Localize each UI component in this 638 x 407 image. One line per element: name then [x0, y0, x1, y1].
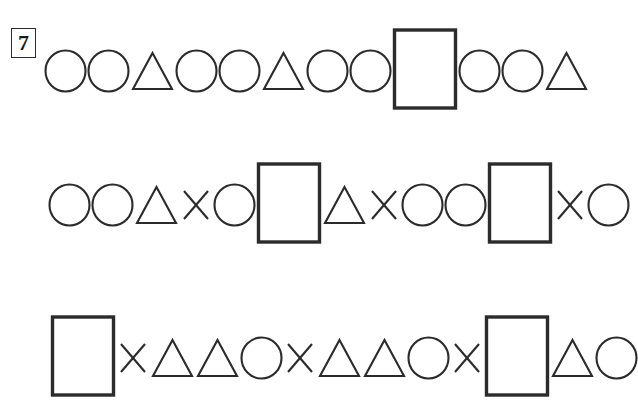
cross-shape	[367, 160, 401, 250]
circle-shape	[444, 160, 487, 250]
rectangle-shape	[487, 160, 553, 250]
circle-shape	[501, 26, 544, 116]
triangle-shape	[362, 313, 407, 403]
triangle-shape	[134, 160, 179, 250]
question-number-badge: 7	[11, 28, 36, 58]
rectangle-shape	[256, 160, 322, 250]
circle-shape	[44, 26, 87, 116]
cross-shape	[283, 313, 317, 403]
circle-shape	[587, 160, 630, 250]
sequence-row-3	[50, 313, 638, 403]
circle-shape	[87, 26, 130, 116]
circle-shape	[218, 26, 261, 116]
circle-shape	[349, 26, 392, 116]
cross-shape	[116, 313, 150, 403]
triangle-shape	[317, 313, 362, 403]
triangle-shape	[322, 160, 367, 250]
circle-shape	[213, 160, 256, 250]
triangle-shape	[195, 313, 240, 403]
triangle-shape	[261, 26, 306, 116]
cross-shape	[179, 160, 213, 250]
triangle-shape	[130, 26, 175, 116]
sequence-row-1	[44, 26, 589, 116]
rectangle-shape	[392, 26, 458, 116]
circle-shape	[175, 26, 218, 116]
triangle-shape	[550, 313, 595, 403]
rectangle-shape	[484, 313, 550, 403]
circle-shape	[595, 313, 638, 403]
rectangle-shape	[50, 313, 116, 403]
circle-shape	[91, 160, 134, 250]
sequence-row-2	[48, 160, 630, 250]
circle-shape	[48, 160, 91, 250]
triangle-shape	[150, 313, 195, 403]
circle-shape	[240, 313, 283, 403]
cross-shape	[553, 160, 587, 250]
circle-shape	[401, 160, 444, 250]
circle-shape	[306, 26, 349, 116]
circle-shape	[407, 313, 450, 403]
cross-shape	[450, 313, 484, 403]
circle-shape	[458, 26, 501, 116]
triangle-shape	[544, 26, 589, 116]
